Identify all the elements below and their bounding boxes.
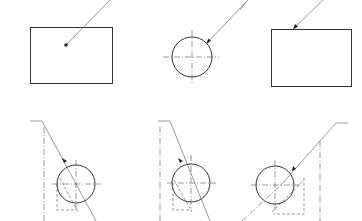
leader-arrowhead — [178, 158, 183, 163]
technical-drawing — [0, 0, 362, 221]
rectangle-outline — [31, 28, 113, 84]
panel-rect-arrow — [240, 0, 352, 87]
leader-line — [293, 0, 323, 29]
panel-cylinder-left — [30, 121, 101, 221]
hidden-line-box — [173, 183, 192, 210]
leader-line — [207, 0, 248, 43]
panel-circle-arrow — [163, 0, 248, 84]
leader-arrowhead — [62, 158, 67, 163]
panel-cylinder-middle — [158, 121, 216, 221]
adjacent-leader-fragment — [240, 2, 246, 10]
leader-line — [30, 121, 96, 221]
panel-cylinder-right — [242, 123, 348, 221]
leader-line — [158, 121, 210, 221]
rectangle-outline — [272, 30, 352, 87]
leader-line — [280, 123, 348, 186]
panel-rect-dot — [31, 0, 113, 84]
leader-dot-terminator — [64, 43, 68, 47]
hidden-line-box — [57, 184, 76, 210]
hidden-line-box — [274, 178, 304, 214]
leader-line — [66, 0, 110, 45]
